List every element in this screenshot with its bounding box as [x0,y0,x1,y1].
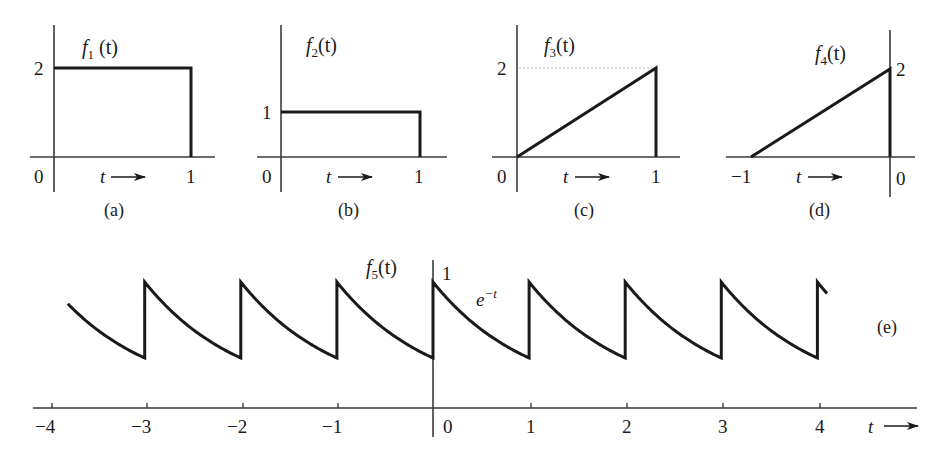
curve-annotation: e−t [476,286,497,310]
panel-b: 1 0 1 t f2(t) (b) [257,25,447,221]
function-label: f2(t) [306,34,337,60]
x-origin-label: 0 [262,166,272,187]
function-label: f5(t) [366,256,397,282]
function-label: f1 (t) [82,36,118,62]
x-origin-label: 0 [497,166,507,187]
f4-ramp [751,69,890,157]
f2-pulse [281,112,420,157]
caption: (d) [809,200,830,221]
t-label: t [326,166,332,187]
x-end-label: 1 [186,166,196,187]
panel-a: 2 0 1 t f1 (t) (a) [30,25,215,221]
x-origin-label: 0 [34,166,44,187]
x-tick-label: 4 [815,416,825,437]
x-tick-label: −4 [35,416,56,437]
x-tick-label: 0 [443,416,453,437]
panel-e: −4 −3 −2 −1 0 1 2 3 4 t 1 f5(t) e−t (e) [33,256,918,437]
signal-figure: 2 0 1 t f1 (t) (a) 1 0 1 t f2(t) (b) 2 0… [0,0,947,462]
f3-ramp [517,68,656,157]
x-tick-labels: −4 −3 −2 −1 0 1 2 3 4 [35,416,825,437]
x-tick-label: 3 [718,416,728,437]
x-origin-label: 0 [896,168,906,189]
caption: (b) [338,200,359,221]
x-tick-label: −1 [322,416,342,437]
caption: (e) [877,317,897,338]
t-label: t [796,166,802,187]
panel-d: 2 −1 0 t f4(t) (d) [726,30,915,221]
x-tick-label: −3 [131,416,151,437]
panel-c: 2 0 1 t f3(t) (c) [492,25,680,221]
caption: (c) [574,200,594,221]
y-tick-label: 1 [262,102,272,123]
x-end-label: 1 [651,166,661,187]
y-tick-label: 2 [497,58,507,79]
t-label: t [100,166,106,187]
f5-periodic-exponential [68,282,827,358]
function-label: f3(t) [544,34,575,60]
peak-label: 1 [442,263,452,284]
x-start-label: −1 [731,166,751,187]
caption: (a) [104,200,124,221]
function-label: f4(t) [815,42,846,68]
x-tick-label: 2 [622,416,632,437]
x-tick-label: −2 [227,416,247,437]
t-label: t [868,416,874,437]
x-end-label: 1 [414,166,424,187]
t-label: t [563,166,569,187]
x-tick-label: 1 [526,416,536,437]
y-tick-label: 2 [896,59,906,80]
f1-pulse [54,68,191,157]
y-tick-label: 2 [34,58,44,79]
